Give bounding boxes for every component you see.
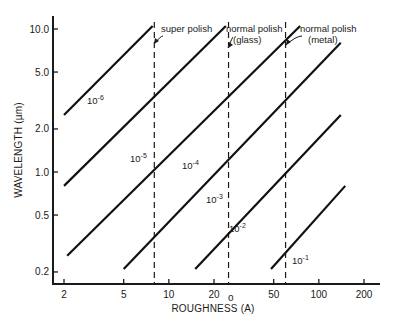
y-tick-label: 0.5: [35, 210, 49, 221]
series-label: 10-3: [206, 193, 223, 205]
annotation-label: super polish: [161, 23, 212, 34]
series-line: [124, 43, 341, 269]
y-tick-label: 1.0: [35, 167, 49, 178]
x-tick-label: 200: [356, 289, 373, 300]
series-label: 10-6: [87, 94, 104, 106]
series-line: [195, 115, 341, 269]
y-axis-title: WAVELENGTH (µm): [13, 102, 24, 197]
annotation-sublabel: (glass): [233, 34, 262, 45]
annotation-sublabel: (metal): [308, 34, 338, 45]
chart: 251020501002000.20.51.02.05.010.0ROUGHNE…: [0, 0, 393, 318]
annotation-label: normal polish: [300, 23, 357, 34]
series-label: 10-1: [292, 254, 309, 266]
x-axis-title: ROUGHNESS (A): [171, 303, 254, 314]
y-tick-label: 10.0: [30, 24, 50, 35]
x-tick-label: 100: [311, 289, 328, 300]
x-tick-label: 2: [61, 289, 67, 300]
series-label: 10-4: [182, 159, 199, 171]
y-tick-label: 0.2: [35, 266, 49, 277]
polish-reference-lines: [154, 22, 285, 284]
series-label: 10-2: [229, 222, 246, 234]
y-tick-label: 2.0: [35, 123, 49, 134]
annotation-label: normal polish: [226, 23, 283, 34]
series-lines: [64, 26, 345, 269]
x-tick-label: 20: [208, 289, 220, 300]
x-tick-label: 5: [121, 289, 127, 300]
angstrom-ring: o: [228, 292, 234, 303]
x-tick-label: 10: [163, 289, 175, 300]
series-line: [67, 26, 300, 256]
y-tick-label: 5.0: [35, 67, 49, 78]
series-label: 10-5: [130, 152, 147, 164]
x-tick-label: 50: [268, 289, 280, 300]
labels: 10-610-510-410-310-210-1super polishnorm…: [87, 23, 357, 266]
series-line: [64, 26, 153, 115]
